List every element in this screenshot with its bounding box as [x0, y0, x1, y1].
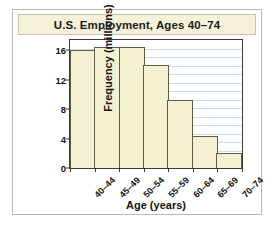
- x-tick-label: 60–64: [191, 175, 216, 200]
- chart-title-banner: U.S. Employment, Ages 40–74: [18, 14, 256, 35]
- x-tick-mark: [144, 168, 145, 172]
- x-tick-label: 40–44: [93, 175, 118, 200]
- bar: [167, 100, 193, 168]
- histogram-figure: U.S. Employment, Ages 40–74 0481216 Freq…: [0, 0, 275, 227]
- chart-card: U.S. Employment, Ages 40–74 0481216 Freq…: [12, 9, 262, 215]
- y-tick-mark: [66, 138, 70, 139]
- bar: [70, 50, 96, 168]
- x-tick-mark: [95, 168, 96, 172]
- y-tick-mark: [66, 109, 70, 110]
- y-tick-label: 16: [55, 45, 66, 56]
- bar: [192, 136, 218, 168]
- bar: [143, 65, 169, 168]
- y-tick-mark: [66, 79, 70, 80]
- plot-inner: [70, 40, 242, 168]
- chart-title: U.S. Employment, Ages 40–74: [54, 19, 221, 31]
- x-tick-mark: [242, 168, 243, 172]
- bar: [216, 153, 242, 168]
- x-tick-label: 45–49: [117, 175, 142, 200]
- x-tick-label: 65–69: [215, 175, 240, 200]
- x-tick-label: 70–74: [240, 175, 265, 200]
- x-tick-label: 55–59: [166, 175, 191, 200]
- x-tick-mark: [70, 168, 71, 172]
- x-tick-mark: [119, 168, 120, 172]
- bar-series: [70, 40, 242, 168]
- x-tick-label: 50–54: [142, 175, 167, 200]
- bar: [119, 47, 145, 168]
- y-tick-mark: [66, 50, 70, 51]
- x-tick-mark: [193, 168, 194, 172]
- plot-area: 0481216 Frequency (millions) 40–4445–495…: [69, 39, 243, 169]
- x-tick-mark: [168, 168, 169, 172]
- x-tick-mark: [217, 168, 218, 172]
- y-tick-label: 12: [55, 74, 66, 85]
- x-axis-title: Age (years): [69, 199, 243, 211]
- y-axis-title: Frequency (millions): [102, 0, 114, 123]
